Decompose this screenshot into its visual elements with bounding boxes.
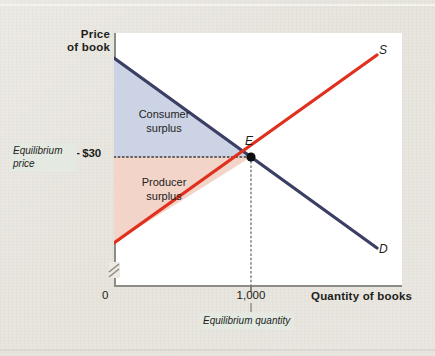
x-tick-1000: 1,000 [225,289,277,302]
equilibrium-price-callout: Equilibrium price [10,143,77,172]
producer-surplus-line1: Producer [142,176,187,188]
consumer-surplus-label: Consumer surplus [128,108,200,136]
consumer-surplus-line2: surplus [146,122,181,134]
equilibrium-point-label: E [245,135,253,149]
supply-curve-label: S [379,44,387,58]
figure-container: Price of book Quantity of books 0 1,000 … [0,0,435,356]
equilibrium-quantity-callout: Equilibrium quantity [200,313,294,329]
y-axis-title-line2: of book [67,41,110,53]
y-axis-title-line1: Price [81,28,110,40]
producer-surplus-label: Producer surplus [128,176,200,204]
y-axis-title: Price of book [28,28,110,54]
producer-surplus-line2: surplus [146,190,181,202]
consumer-surplus-line1: Consumer [139,108,190,120]
y-axis-break-icon [109,262,120,278]
x-axis-title: Quantity of books [311,290,412,303]
x-tick-origin: 0 [102,289,108,302]
equilibrium-point-marker [246,152,255,161]
demand-curve-label: D [379,243,388,257]
